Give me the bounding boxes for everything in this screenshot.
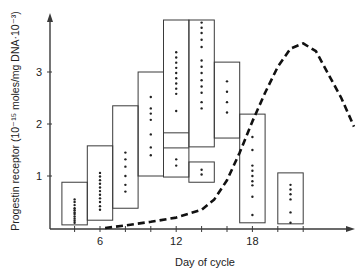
data-point <box>200 27 202 29</box>
data-point <box>251 214 253 216</box>
data-point <box>73 215 75 217</box>
data-point <box>200 169 202 171</box>
range-box <box>189 162 214 182</box>
range-box <box>138 72 163 176</box>
data-point <box>99 175 101 177</box>
data-point <box>289 184 291 186</box>
data-point <box>73 220 75 222</box>
data-point <box>150 96 152 98</box>
data-point <box>175 51 177 53</box>
data-point <box>289 211 291 213</box>
data-point <box>175 56 177 58</box>
data-point <box>73 198 75 200</box>
data-point <box>124 165 126 167</box>
y-axis-arrow-icon <box>47 13 53 22</box>
data-point <box>150 154 152 156</box>
data-point <box>200 92 202 94</box>
data-point <box>124 184 126 186</box>
data-point <box>200 39 202 41</box>
data-point <box>289 193 291 195</box>
data-point <box>251 170 253 172</box>
data-point <box>99 209 101 211</box>
data-point <box>124 151 126 153</box>
data-point <box>226 111 228 113</box>
data-point <box>150 146 152 148</box>
data-point <box>200 85 202 87</box>
data-point <box>73 211 75 213</box>
range-box <box>113 106 138 208</box>
data-point <box>200 21 202 23</box>
data-point <box>200 173 202 175</box>
data-point <box>251 180 253 182</box>
data-point <box>73 222 75 224</box>
data-point <box>73 217 75 219</box>
data-point <box>175 93 177 95</box>
data-point <box>175 164 177 166</box>
data-point <box>150 112 152 114</box>
data-point <box>200 107 202 109</box>
chart: 61218123 Progestin receptor (10⁻¹⁵ moles… <box>0 0 360 278</box>
data-point <box>73 207 75 209</box>
data-point <box>226 80 228 82</box>
data-point <box>175 82 177 84</box>
data-point <box>289 222 291 224</box>
x-axis-arrow-icon <box>346 226 355 232</box>
data-point <box>226 101 228 103</box>
dashed-trend-curve <box>105 43 354 228</box>
data-point <box>150 107 152 109</box>
data-point <box>289 188 291 190</box>
data-point <box>200 72 202 74</box>
x-tick-label: 18 <box>246 235 258 247</box>
data-point <box>175 67 177 69</box>
x-axis-label: Day of cycle <box>150 256 260 268</box>
data-point <box>175 110 177 112</box>
data-point <box>251 164 253 166</box>
data-point <box>226 91 228 93</box>
data-point <box>73 201 75 203</box>
data-point <box>251 184 253 186</box>
data-point <box>99 186 101 188</box>
data-point <box>200 59 202 61</box>
data-point <box>99 179 101 181</box>
data-point <box>99 201 101 203</box>
range-box <box>164 20 189 177</box>
data-point <box>124 175 126 177</box>
data-point <box>175 158 177 160</box>
data-point <box>150 133 152 135</box>
data-point <box>99 194 101 196</box>
data-point <box>200 66 202 68</box>
y-axis-label: Progestin receptor (10⁻¹⁵ moles/mg DNA·1… <box>9 1 23 241</box>
range-box <box>214 62 239 138</box>
data-point <box>175 61 177 63</box>
y-tick-label: 3 <box>36 66 42 78</box>
data-point <box>175 72 177 74</box>
data-point <box>99 205 101 207</box>
data-point <box>150 119 152 121</box>
data-point <box>200 46 202 48</box>
data-point <box>124 190 126 192</box>
data-point <box>73 204 75 206</box>
data-point <box>99 197 101 199</box>
data-point <box>175 77 177 79</box>
x-tick-label: 12 <box>170 235 182 247</box>
data-point <box>200 79 202 81</box>
data-point <box>99 183 101 185</box>
data-point <box>175 87 177 89</box>
data-point <box>99 190 101 192</box>
data-point <box>251 196 253 198</box>
data-point <box>73 209 75 211</box>
x-tick-label: 6 <box>97 235 103 247</box>
data-point <box>289 198 291 200</box>
data-point <box>200 32 202 34</box>
data-point <box>200 101 202 103</box>
data-point <box>251 136 253 138</box>
data-point <box>124 158 126 160</box>
data-point <box>99 172 101 174</box>
y-tick-label: 1 <box>36 170 42 182</box>
y-tick-label: 2 <box>36 118 42 130</box>
plot-area: 61218123 <box>0 0 360 278</box>
range-box <box>240 114 265 223</box>
data-point <box>251 175 253 177</box>
data-point <box>251 149 253 151</box>
